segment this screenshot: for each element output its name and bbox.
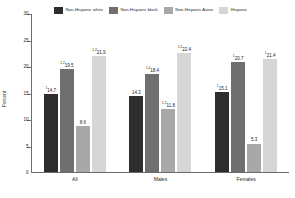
bar-column: 115.1 (215, 14, 229, 172)
bar-column: 121.4 (263, 14, 277, 172)
bar-column: 1,219.5 (60, 14, 74, 172)
bar-value-label: 121.4 (265, 53, 276, 58)
x-axis-group-label: All (72, 176, 78, 182)
bar-value-label: 1,211.8 (162, 103, 175, 108)
bar-value-label: 1,219.5 (60, 63, 73, 68)
bar-groups: 114.71,219.58.61,221.9All14.31,218.41,21… (32, 14, 289, 172)
bar: 120.7 (231, 62, 245, 172)
bar-column: 120.7 (231, 14, 245, 172)
bar-group-females: 115.1120.75.3121.4Females (203, 14, 289, 172)
bar-value-label: 115.1 (217, 86, 228, 91)
legend-swatch-icon (164, 7, 173, 14)
bar: 1,218.4 (145, 74, 159, 172)
bar: 5.3 (247, 144, 261, 172)
legend-item-0: Non-Hispanic white (54, 7, 103, 14)
bar-column: 1,222.4 (177, 14, 191, 172)
legend-item-3: Hispanic (219, 7, 247, 14)
legend-swatch-icon (219, 7, 228, 14)
bar: 1,219.5 (60, 69, 74, 172)
bar-group-males: 14.31,218.41,211.81,222.4Males (118, 14, 204, 172)
bar-column: 5.3 (247, 14, 261, 172)
legend-swatch-icon (109, 7, 118, 14)
bar: 114.7 (44, 94, 58, 172)
bar-column: 114.7 (44, 14, 58, 172)
y-tick-label: 15 (23, 91, 28, 96)
y-axis-label: Percent (2, 91, 7, 108)
legend-label: Non-Hispanic black (120, 8, 157, 12)
legend-label: Non-Hispanic white (66, 8, 103, 12)
y-tick-label: 5 (26, 144, 29, 149)
bar-column: 14.3 (129, 14, 143, 172)
bar: 1,221.9 (92, 56, 106, 172)
legend-label: Non-Hispanic Asian (175, 8, 213, 12)
bar-value-label: 8.6 (80, 121, 86, 126)
bar-value-label: 1,222.4 (178, 47, 191, 52)
bar: 8.6 (76, 126, 90, 172)
plot-area: 051015202530 114.71,219.58.61,221.9All14… (31, 14, 289, 173)
legend-swatch-icon (54, 7, 63, 14)
legend-item-2: Non-Hispanic Asian (164, 7, 213, 14)
x-axis-group-label: Females (237, 176, 256, 182)
x-axis-line (31, 172, 289, 173)
legend-label: Hispanic (231, 8, 248, 12)
y-tick-label: 20 (23, 65, 28, 70)
bar: 1,222.4 (177, 53, 191, 172)
x-axis-group-label: Males (154, 176, 167, 182)
bar-value-label: 5.3 (251, 138, 257, 143)
y-tick-label: 0 (26, 171, 29, 176)
y-tick-label: 25 (23, 38, 28, 43)
y-tick-label: 30 (23, 12, 28, 17)
y-tick-label: 10 (23, 118, 28, 123)
bar-column: 8.6 (76, 14, 90, 172)
bar: 14.3 (129, 96, 143, 172)
bar-value-label: 1,218.4 (146, 68, 159, 73)
bar: 121.4 (263, 59, 277, 172)
bar-value-label: 114.7 (46, 88, 57, 93)
bar-value-label: 1,221.9 (92, 50, 105, 55)
legend-item-1: Non-Hispanic black (109, 7, 158, 14)
bar-column: 1,211.8 (161, 14, 175, 172)
bar-group-all: 114.71,219.58.61,221.9All (32, 14, 118, 172)
bar-column: 1,221.9 (92, 14, 106, 172)
bar-column: 1,218.4 (145, 14, 159, 172)
bar-chart: Non-Hispanic whiteNon-Hispanic blackNon-… (0, 0, 295, 198)
bar-value-label: 120.7 (233, 56, 244, 61)
bar-value-label: 14.3 (132, 91, 141, 96)
bar: 115.1 (215, 92, 229, 172)
bar: 1,211.8 (161, 109, 175, 172)
